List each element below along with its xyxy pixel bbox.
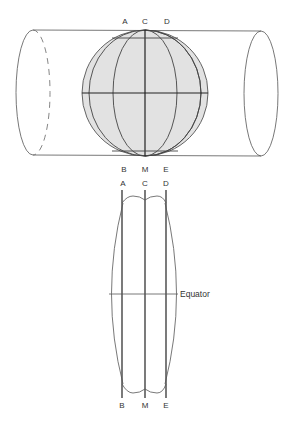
cylinder-figure: A C D B M E [16,17,278,174]
gore-label-bottom-m: M [142,401,149,410]
label-top-a: A [122,17,128,26]
gore-label-bottom-b: B [119,401,124,410]
gore-figure: A C D Equator B M E [109,179,210,410]
label-bottom-m: M [142,165,149,174]
cylinder-left-end-solid [16,30,33,155]
gore-label-top-d: D [163,179,169,188]
equator-label: Equator [180,289,210,299]
gore-right-boundary [165,203,177,384]
gore-left-boundary [112,203,124,384]
gore-label-top-c: C [142,179,148,188]
globe [82,30,208,156]
transverse-cylinder-projection-diagram: A C D B M E A C D Equator B M E [0,0,286,426]
cylinder-left-end-hidden [33,30,50,155]
gore-label-bottom-e: E [163,401,168,410]
label-bottom-e: E [163,165,168,174]
label-top-c: C [142,17,148,26]
label-bottom-b: B [121,165,126,174]
cylinder-right-end [244,31,278,156]
label-top-d: D [164,17,170,26]
gore-top-edge [122,196,166,203]
gore-bottom-edge [122,384,166,393]
gore-label-top-a: A [120,179,126,188]
